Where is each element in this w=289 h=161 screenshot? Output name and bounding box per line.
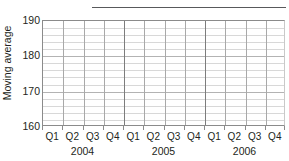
x-label-2006-q2: Q2 xyxy=(224,130,244,143)
x-axis-year-labels: 2004 2005 2006 xyxy=(42,145,285,159)
gridline-h-180 xyxy=(43,56,284,57)
gridline-h-176 xyxy=(43,70,284,71)
gridline-v-2006-q1 xyxy=(225,21,226,125)
x-label-year-2005: 2005 xyxy=(123,145,204,158)
x-label-year-2006: 2006 xyxy=(204,145,285,158)
y-tick-label-160: 160 xyxy=(12,121,40,131)
y-tick-label-170: 170 xyxy=(12,86,40,96)
gridline-h-168 xyxy=(43,99,284,100)
gridline-h-184 xyxy=(43,42,284,43)
x-label-2006-q1: Q1 xyxy=(204,130,224,143)
y-tick-label-180: 180 xyxy=(12,50,40,60)
gridline-v-2005-q4 xyxy=(205,21,206,125)
gridline-h-186 xyxy=(43,35,284,36)
x-label-2004-q2: Q2 xyxy=(62,130,82,143)
gridline-h-164 xyxy=(43,113,284,114)
x-label-2005-q2: Q2 xyxy=(143,130,163,143)
gridline-h-172 xyxy=(43,85,284,86)
x-label-2005-q1: Q1 xyxy=(123,130,143,143)
gridline-v-2006-q3 xyxy=(266,21,267,125)
gridline-v-2006-q2 xyxy=(246,21,247,125)
x-label-2005-q4: Q4 xyxy=(184,130,204,143)
gridline-h-178 xyxy=(43,63,284,64)
gridline-v-2004-q3 xyxy=(104,21,105,125)
y-axis-tick-labels: 190 180 170 160 xyxy=(12,20,40,126)
gridline-h-174 xyxy=(43,77,284,78)
x-label-2004-q3: Q3 xyxy=(83,130,103,143)
gridline-v-2005-q2 xyxy=(165,21,166,125)
gridline-h-166 xyxy=(43,106,284,107)
y-tick-label-190: 190 xyxy=(12,15,40,25)
x-label-2004-q1: Q1 xyxy=(42,130,62,143)
series-line-moving-average xyxy=(92,7,286,8)
gridline-h-162 xyxy=(43,120,284,121)
gridline-h-182 xyxy=(43,49,284,50)
moving-average-line-chart: Moving average 190 180 170 160 xyxy=(0,0,289,161)
gridline-v-2005-q1 xyxy=(144,21,145,125)
x-label-2005-q3: Q3 xyxy=(164,130,184,143)
x-label-2004-q4: Q4 xyxy=(103,130,123,143)
gridline-v-2004-q4 xyxy=(124,21,125,125)
x-label-2006-q4: Q4 xyxy=(265,130,285,143)
gridline-v-2005-q3 xyxy=(185,21,186,125)
plot-area xyxy=(42,20,285,126)
gridline-v-2004-q1 xyxy=(63,21,64,125)
x-axis-quarter-labels: Q1 Q2 Q3 Q4 Q1 Q2 Q3 Q4 Q1 Q2 Q3 Q4 xyxy=(42,130,285,144)
x-label-year-2004: 2004 xyxy=(42,145,123,158)
gridline-v-2004-q2 xyxy=(84,21,85,125)
x-label-2006-q3: Q3 xyxy=(245,130,265,143)
gridline-h-170 xyxy=(43,92,284,93)
gridline-h-188 xyxy=(43,28,284,29)
